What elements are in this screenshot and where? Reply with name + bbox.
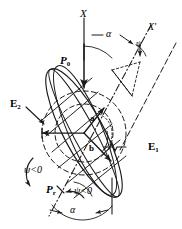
alpha-angle-bottom-label: α bbox=[70, 205, 75, 215]
figure-canvas: X X' P0 Pr E2 E1 a b α α ψ ψ<0 ψ<0 bbox=[0, 0, 182, 229]
x-prime-axis-label: X' bbox=[148, 22, 156, 32]
alpha-angle-top-label: α bbox=[106, 29, 111, 39]
e2-circle-label: E2 bbox=[10, 98, 21, 110]
pr-letter: P bbox=[46, 183, 53, 195]
alpha-leader-bottom-left bbox=[50, 210, 62, 213]
pr-vector-label: Pr bbox=[46, 184, 56, 196]
semi-axis-a-label: a bbox=[90, 114, 95, 123]
semi-axis-b-label: b bbox=[89, 144, 94, 153]
psi-negative-bottom-label: ψ<0 bbox=[74, 186, 92, 196]
e1-subscript: 1 bbox=[155, 146, 158, 153]
x-axis-label: X bbox=[80, 8, 87, 19]
alpha-arc-top bbox=[84, 46, 112, 58]
e2-subscript: 2 bbox=[17, 103, 20, 110]
e2-leader-line bbox=[26, 107, 44, 124]
pr-subscript: r bbox=[53, 189, 56, 196]
p0-vector-label: P0 bbox=[60, 55, 70, 67]
apex-construction-solid bbox=[112, 70, 132, 96]
secondary-inclined-dashed-line bbox=[120, 43, 176, 150]
alpha-leader-top-right bbox=[120, 35, 133, 44]
e1-circle-label: E1 bbox=[148, 141, 159, 153]
psi-angle-top-label: ψ bbox=[136, 39, 142, 48]
psi-negative-left-label: ψ<0 bbox=[24, 165, 42, 175]
p0-letter: P bbox=[60, 54, 67, 66]
p0-subscript: 0 bbox=[67, 60, 70, 67]
